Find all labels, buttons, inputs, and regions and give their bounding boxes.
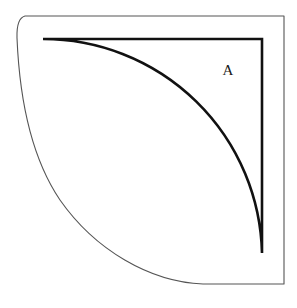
region-label-a: A	[223, 62, 234, 78]
diagram-background	[0, 0, 297, 308]
geometry-diagram: A	[0, 0, 297, 308]
figure-canvas: A	[0, 0, 297, 308]
